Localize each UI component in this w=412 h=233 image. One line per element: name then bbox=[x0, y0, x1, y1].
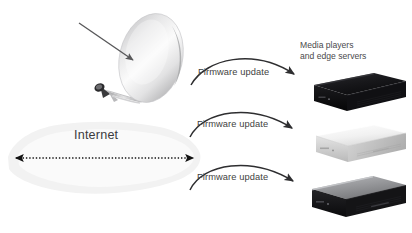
media-players-heading-line1: Media players bbox=[300, 40, 366, 51]
firmware-update-label-2: Firmware update bbox=[197, 119, 268, 130]
firmware-update-label-3: Firmware update bbox=[197, 172, 268, 183]
media-players-heading: Media players and edge servers bbox=[300, 40, 366, 62]
satellite-dish-reflector bbox=[110, 7, 192, 109]
firmware-update-diagram: Internet Media players and edge servers … bbox=[0, 0, 412, 233]
firmware-update-label-1: Firmware update bbox=[198, 67, 269, 78]
media-players-heading-line2: and edge servers bbox=[300, 51, 366, 62]
media-player-white bbox=[313, 124, 409, 166]
internet-label: Internet bbox=[74, 128, 118, 143]
media-player-black bbox=[311, 72, 409, 114]
media-player-silver-black bbox=[309, 174, 409, 222]
